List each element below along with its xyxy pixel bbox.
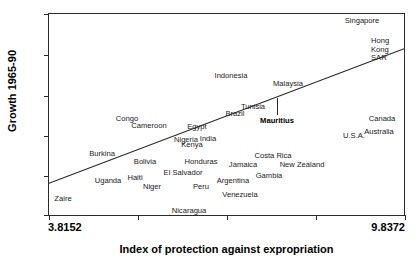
point-label-kenya: Kenya	[181, 141, 203, 150]
point-label-uganda: Uganda	[95, 177, 122, 186]
point-label-canada: Canada	[369, 115, 396, 124]
point-label-burkina: Burkina	[89, 150, 115, 159]
point-label-venezuela: Venezuela	[222, 191, 257, 200]
point-label-gambia: Gambia	[256, 172, 283, 181]
point-label-singapore: Singapore	[345, 17, 380, 26]
point-label-bolivia: Bolivia	[134, 158, 156, 167]
point-label-mauritius: Mauritius	[260, 117, 294, 126]
point-label-niger: Niger	[143, 183, 161, 192]
point-label-malaysia: Malaysia	[273, 80, 303, 89]
scatter-plot-figure: 7.39 -2.24 Growth 1965-90 Zaire Uganda H…	[0, 0, 419, 269]
point-label-tunisia: Tunisia	[241, 103, 265, 112]
x-axis-max-label: 9.8372	[371, 221, 405, 233]
point-label-australia: Australia	[364, 128, 394, 137]
x-tick	[49, 215, 50, 220]
x-axis-title: Index of protection against expropriatio…	[48, 243, 405, 255]
plot-area: Zaire Uganda Haiti Niger Burkina Bolivia…	[48, 13, 405, 216]
y-axis-title: Growth 1965-90	[6, 50, 18, 132]
x-tick	[138, 215, 139, 220]
point-label-usa: U.S.A.	[343, 132, 365, 141]
point-label-nicaragua: Nicaragua	[172, 207, 207, 216]
x-axis-min-label: 3.8152	[48, 221, 82, 233]
x-tick	[405, 215, 406, 220]
point-label-indonesia: Indonesia	[215, 72, 248, 81]
point-label-honduras: Honduras	[185, 158, 218, 167]
point-label-haiti: Haiti	[127, 174, 142, 183]
point-label-argentina: Argentina	[217, 177, 250, 186]
point-label-peru: Peru	[193, 183, 209, 192]
point-label-new-zealand: New Zealand	[280, 161, 325, 170]
point-label-jamaica: Jamaica	[229, 161, 257, 170]
x-tick	[316, 215, 317, 220]
point-label-zaire: Zaire	[54, 195, 71, 204]
mauritius-pointer-line	[277, 98, 278, 115]
x-tick	[227, 215, 228, 220]
point-label-cameroon: Cameroon	[131, 122, 166, 131]
point-label-hong-kong-sar: Hong Kong SAR	[371, 37, 393, 63]
point-label-el-salvador: El Salvador	[164, 169, 203, 178]
point-label-egypt: Egypt	[187, 123, 206, 132]
